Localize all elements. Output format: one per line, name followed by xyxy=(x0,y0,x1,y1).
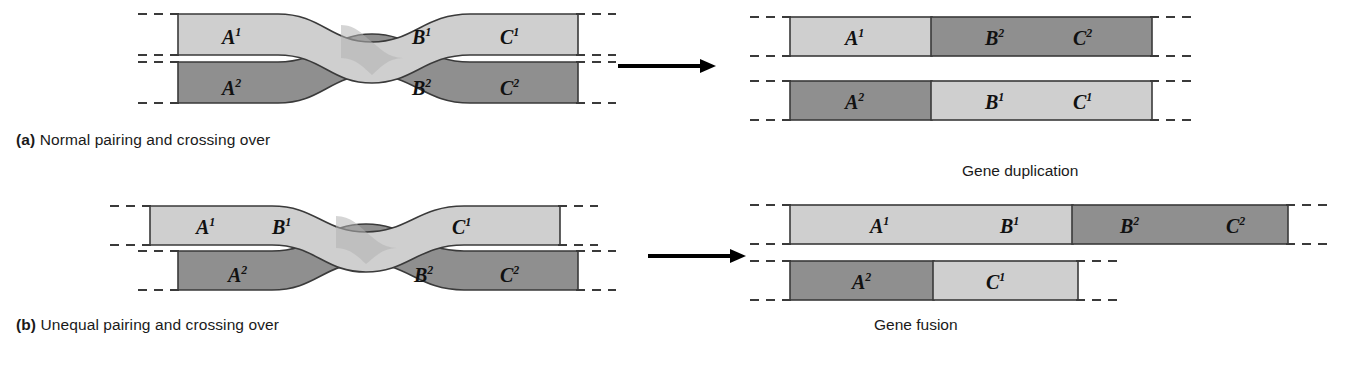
segment-b1c1-right-a xyxy=(931,81,1152,120)
segment-b2c2-right-a xyxy=(931,17,1152,56)
panel-b-left-pairing: A1 B1 C1 A2 B2 C2 xyxy=(110,206,616,290)
gene-label-b2-left-a: B2 xyxy=(411,76,431,99)
panel-a-left-pairing: A1 A2 B1 C1 B2 C2 xyxy=(138,14,616,103)
panel-a-letter: (a) xyxy=(16,131,35,148)
gene-fusion-annotation: Gene fusion xyxy=(874,316,958,334)
dashed-ends-a-left-right xyxy=(576,14,616,103)
segment-b2c2-right-b xyxy=(1072,205,1288,244)
panel-b-caption-text: Unequal pairing and crossing over xyxy=(41,316,280,333)
segment-c1-right-b xyxy=(933,261,1078,300)
dashed-ends-a-left xyxy=(138,14,180,103)
figure-canvas: A1 A2 B1 C1 B2 C2 xyxy=(0,0,1350,371)
panel-a-caption-text: Normal pairing and crossing over xyxy=(40,131,271,148)
segment-a1b1-right-b xyxy=(790,205,1073,244)
panel-b-caption: (b) Unequal pairing and crossing over xyxy=(16,316,279,334)
panel-a-caption: (a) Normal pairing and crossing over xyxy=(16,131,270,149)
panel-b-letter: (b) xyxy=(16,316,36,333)
arrow-panel-b xyxy=(648,249,746,263)
gene-duplication-annotation: Gene duplication xyxy=(962,162,1078,180)
panel-a-right-products: A1 B2 C2 A2 B1 C1 xyxy=(750,17,1192,120)
panel-b-right-products: A1 B1 B2 C2 A2 C1 xyxy=(750,205,1328,300)
arrow-panel-a xyxy=(618,59,716,73)
